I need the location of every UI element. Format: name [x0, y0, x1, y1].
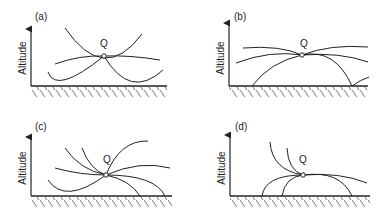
ground-hatching [229, 87, 368, 97]
panel-label: (a) [35, 11, 47, 22]
altitude-axis-label: Altitude [215, 41, 226, 75]
altitude-axis-label: Altitude [17, 41, 28, 75]
figure: (a) Altitude Q (b) Altitude Q (c) [0, 0, 380, 218]
q-label: Q [300, 38, 308, 49]
panel-b: (b) Altitude Q [215, 11, 369, 97]
trajectories [48, 141, 170, 196]
point-q [104, 173, 108, 177]
altitude-axis-label: Altitude [216, 151, 227, 185]
q-label: Q [100, 38, 108, 49]
panel-a: (a) Altitude Q [17, 11, 167, 97]
panel-c: (c) Altitude Q [17, 121, 172, 207]
panel-d: (d) Altitude Q [216, 121, 370, 207]
point-q [102, 54, 106, 58]
panel-label: (d) [235, 121, 247, 132]
ground-hatching [31, 87, 167, 97]
q-label: Q [299, 154, 307, 165]
q-label: Q [103, 154, 111, 165]
panel-label: (b) [234, 11, 246, 22]
altitude-axis-label: Altitude [17, 151, 28, 185]
panel-label: (c) [35, 121, 47, 132]
trajectories [236, 46, 369, 86]
point-q [301, 173, 305, 177]
ground-hatching [31, 197, 172, 207]
ground-hatching [230, 197, 370, 207]
point-q [300, 53, 304, 57]
trajectories [262, 142, 367, 196]
